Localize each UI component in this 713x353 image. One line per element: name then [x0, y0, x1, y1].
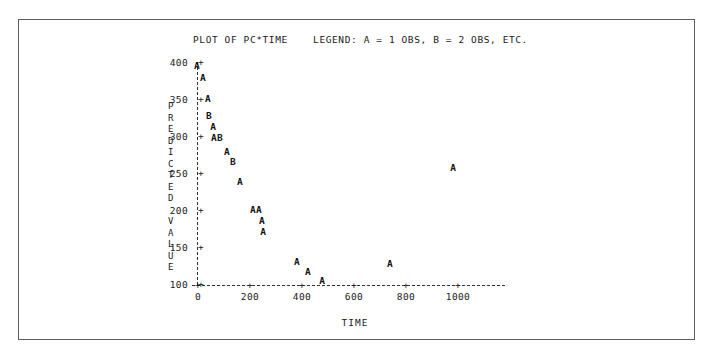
x-tick-mark: +: [195, 280, 201, 290]
data-point-marker: A: [194, 62, 200, 72]
x-tick-label: 400: [293, 292, 311, 302]
x-tick-mark: +: [299, 280, 305, 290]
x-tick-label: 600: [345, 292, 363, 302]
y-axis-label-char: D: [168, 193, 174, 205]
data-point-marker: A: [294, 257, 300, 267]
data-point-marker: B: [217, 133, 223, 143]
y-axis-label-char: E: [168, 262, 174, 274]
x-tick-label: 0: [195, 292, 201, 302]
data-point-marker: A: [319, 276, 325, 286]
data-point-marker: A: [256, 205, 262, 215]
data-point-marker: A: [259, 216, 265, 226]
data-point-marker: A: [210, 122, 216, 132]
x-tick-mark: +: [247, 280, 253, 290]
y-tick-mark: +: [198, 242, 204, 252]
y-tick-label: 300: [170, 132, 188, 142]
x-tick-label: 1000: [446, 292, 470, 302]
x-tick-mark: +: [455, 280, 461, 290]
y-tick-mark: +: [198, 94, 204, 104]
data-point-marker: A: [200, 73, 206, 83]
data-point-marker: A: [237, 177, 243, 187]
data-point-marker: A: [450, 163, 456, 173]
data-point-marker: B: [206, 111, 212, 121]
y-tick-label: 400: [170, 58, 188, 68]
y-tick-label: 350: [170, 95, 188, 105]
x-tick-label: 200: [241, 292, 259, 302]
y-tick-label: 200: [170, 206, 188, 216]
plot-canvas: PLOT OF PC*TIME LEGEND: A = 1 OBS, B = 2…: [0, 0, 713, 353]
y-axis-label-char: R: [168, 113, 174, 125]
y-tick-mark: +: [198, 168, 204, 178]
y-axis-label-char: V: [168, 216, 174, 228]
x-axis-label: TIME: [342, 317, 369, 328]
y-axis-label-char: E: [168, 182, 174, 194]
data-point-marker: A: [205, 94, 211, 104]
data-point-marker: B: [230, 157, 236, 167]
data-point-marker: A: [387, 259, 393, 269]
y-tick-label: 100: [170, 280, 188, 290]
y-axis-label-char: I: [168, 147, 174, 159]
plot-title: PLOT OF PC*TIME LEGEND: A = 1 OBS, B = 2…: [193, 34, 528, 45]
y-axis-label-char: A: [168, 228, 174, 240]
data-point-marker: A: [224, 147, 230, 157]
y-tick-mark: +: [198, 131, 204, 141]
data-point-marker: A: [211, 133, 217, 143]
data-point-marker: A: [305, 267, 311, 277]
y-tick-mark: +: [198, 205, 204, 215]
y-tick-label: 250: [170, 169, 188, 179]
x-tick-mark: +: [351, 280, 357, 290]
data-point-marker: A: [250, 205, 256, 215]
y-tick-label: 150: [170, 243, 188, 253]
data-point-marker: A: [260, 227, 266, 237]
x-tick-mark: +: [403, 280, 409, 290]
x-tick-label: 800: [397, 292, 415, 302]
